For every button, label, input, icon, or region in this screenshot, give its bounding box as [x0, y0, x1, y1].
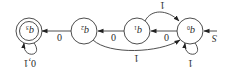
edge-q1-q0: 1 — [145, 0, 179, 21]
state-q2: q2 — [71, 18, 97, 44]
edge-label: 0 — [164, 32, 169, 43]
start-label: S — [212, 33, 217, 44]
edge-label: 1 — [160, 0, 165, 11]
edge-q2-q3: 0 — [42, 31, 71, 43]
start-arrow: S — [204, 31, 217, 44]
edge-q1-q2: 0 — [98, 31, 124, 43]
self-loop-q3: 0,1 — [24, 43, 37, 69]
self-loop-q0: 1 — [185, 43, 198, 69]
edge-label: 0 — [57, 32, 62, 43]
state-q0: q0 — [177, 18, 203, 44]
edge-label: 0 — [111, 32, 116, 43]
edge-label: 1 — [134, 53, 139, 64]
state-q1: q1 — [124, 18, 150, 44]
edge-q0-q1: 0 — [151, 31, 177, 43]
state-q3-accepting: q3 — [16, 18, 42, 44]
edge-label: 1 — [188, 58, 193, 69]
dfa-diagram: S 0 1 0 1 0 1 0,1 q0 q1 — [0, 0, 229, 77]
edge-label: 0,1 — [24, 58, 37, 69]
